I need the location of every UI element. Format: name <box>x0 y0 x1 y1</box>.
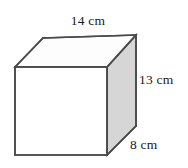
depth-dimension-label: 8 cm <box>130 138 157 152</box>
prism-figure: 14 cm 13 cm 8 cm <box>0 0 188 168</box>
front-face <box>15 67 107 155</box>
width-dimension-label: 14 cm <box>0 14 176 28</box>
height-dimension-label: 13 cm <box>139 73 173 87</box>
